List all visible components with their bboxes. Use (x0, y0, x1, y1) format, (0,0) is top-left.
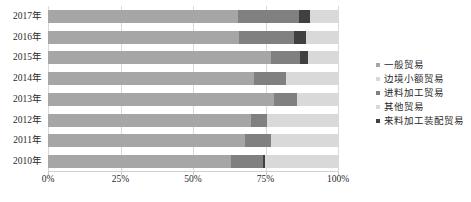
bar-segment[interactable] (239, 31, 294, 44)
legend-item-label: 一般贸易 (384, 58, 424, 72)
bar-segment[interactable] (271, 134, 338, 147)
y-axis-label: 2017年 (13, 10, 42, 23)
bar-segment[interactable] (238, 10, 299, 23)
bar-segment[interactable] (251, 114, 267, 127)
legend-item-label: 其他贸易 (384, 100, 424, 114)
bar-segment[interactable] (274, 93, 297, 106)
legend-item[interactable]: 进料加工贸易 (376, 86, 471, 100)
legend-item-label: 来料加工装配贸易 (384, 114, 464, 128)
bar-row[interactable] (48, 72, 338, 85)
bar-segment[interactable] (48, 114, 251, 127)
plot-area (48, 6, 338, 172)
bar-segment[interactable] (48, 51, 271, 64)
bar-row[interactable] (48, 93, 338, 106)
y-axis-label: 2011年 (13, 134, 42, 147)
x-axis-line (48, 171, 338, 172)
bar-segment[interactable] (294, 31, 306, 44)
legend-item[interactable]: 其他贸易 (376, 100, 471, 114)
bar-row[interactable] (48, 31, 338, 44)
legend-item-label: 进料加工贸易 (384, 86, 444, 100)
legend-swatch-icon (376, 63, 380, 67)
bar-segment[interactable] (48, 31, 239, 44)
y-axis-label: 2012年 (13, 114, 42, 127)
bar-segment[interactable] (271, 51, 300, 64)
legend-swatch-icon (376, 91, 380, 95)
bar-segment[interactable] (254, 72, 286, 85)
y-axis-labels: 2017年2016年2015年2014年2013年2012年2011年2010年 (0, 6, 46, 172)
chart-legend: 一般贸易边境小额贸易进料加工贸易其他贸易来料加工装配贸易 (376, 58, 471, 128)
legend-item-label: 边境小额贸易 (384, 72, 444, 86)
bar-segment[interactable] (48, 72, 254, 85)
x-axis-tick-label: 75% (257, 174, 274, 184)
y-axis-label: 2010年 (13, 155, 42, 168)
y-axis-label: 2016年 (13, 31, 42, 44)
bar-segment[interactable] (267, 114, 338, 127)
bar-segment[interactable] (306, 31, 338, 44)
bar-segment[interactable] (48, 10, 238, 23)
x-axis-tick-label: 100% (327, 174, 349, 184)
bar-row[interactable] (48, 114, 338, 127)
x-axis-labels: 0%25%50%75%100% (48, 174, 338, 190)
bar-segment[interactable] (48, 93, 274, 106)
y-axis-label: 2013年 (13, 93, 42, 106)
legend-item[interactable]: 边境小额贸易 (376, 72, 471, 86)
x-axis-tick-label: 0% (42, 174, 55, 184)
legend-swatch-icon (376, 77, 380, 81)
bar-segment[interactable] (245, 134, 271, 147)
legend-item[interactable]: 一般贸易 (376, 58, 471, 72)
legend-item[interactable]: 来料加工装配贸易 (376, 114, 471, 128)
bar-segment[interactable] (297, 93, 338, 106)
bar-segment[interactable] (300, 51, 307, 64)
bar-row[interactable] (48, 10, 338, 23)
bar-segment[interactable] (48, 155, 231, 168)
bar-row[interactable] (48, 155, 338, 168)
x-axis-tick-label: 50% (184, 174, 201, 184)
bar-segment[interactable] (48, 134, 245, 147)
bar-row[interactable] (48, 134, 338, 147)
bar-segment[interactable] (310, 10, 338, 23)
bar-segment[interactable] (265, 155, 338, 168)
bar-segment[interactable] (308, 51, 338, 64)
x-axis-tick-label: 25% (112, 174, 129, 184)
legend-swatch-icon (376, 105, 380, 109)
y-axis-label: 2015年 (13, 51, 42, 64)
gridline-100 (338, 6, 339, 172)
bar-series-container (48, 6, 338, 172)
y-axis-label: 2014年 (13, 72, 42, 85)
stacked-bar-chart: 2017年2016年2015年2014年2013年2012年2011年2010年… (0, 0, 471, 202)
legend-swatch-icon (376, 119, 380, 123)
bar-segment[interactable] (231, 155, 263, 168)
bar-row[interactable] (48, 51, 338, 64)
bar-segment[interactable] (286, 72, 338, 85)
bar-segment[interactable] (299, 10, 311, 23)
